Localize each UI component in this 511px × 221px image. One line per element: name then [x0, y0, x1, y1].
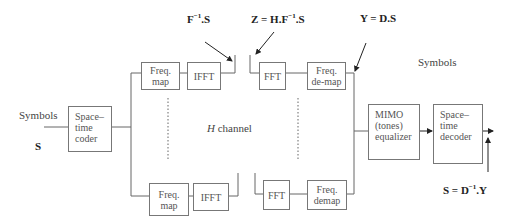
output-symbols-label: Symbols	[418, 56, 457, 68]
fft-top-block: FFT	[259, 62, 286, 90]
eq-base: S = D	[443, 184, 469, 196]
block-line: Space–	[75, 111, 111, 122]
equation-demap-output: Y = D.S	[360, 12, 396, 24]
block-line: equalizer	[375, 131, 419, 142]
channel-label: H channel	[207, 122, 252, 134]
eq-tail: .Y	[476, 184, 487, 196]
block-line: Freq.	[150, 65, 171, 76]
eq-base: F	[187, 13, 194, 25]
eq-base: Z = H.F	[251, 13, 288, 25]
block-line: MIMO	[375, 109, 419, 120]
block-line: time	[440, 120, 482, 131]
block-line: map	[159, 200, 180, 211]
freq-demap-top-block: Freq.de-map	[307, 62, 346, 90]
block-line: de-map	[312, 76, 342, 87]
ifft-top-block: IFFT	[187, 62, 221, 90]
block-line: demap	[314, 195, 341, 206]
freq-map-bottom-block: Freq.map	[149, 183, 189, 216]
equation-channel-output: Z = H.F−1.S	[251, 12, 305, 25]
equation-decoder-output: S = D−1.Y	[443, 183, 487, 196]
block-line: decoder	[440, 131, 482, 142]
eq-sup: −1	[288, 12, 296, 20]
channel-symbol: H	[207, 122, 215, 134]
block-line: Freq.	[159, 189, 180, 200]
freq-demap-bottom-block: Freq.demap	[307, 180, 347, 210]
block-line: time	[75, 122, 111, 133]
fft-bottom-block: FFT	[263, 180, 290, 210]
freq-map-top-block: Freq.map	[141, 62, 180, 90]
eq-tail: .S	[201, 13, 210, 25]
space-time-coder-block: Space– time coder	[68, 106, 112, 152]
block-line: Freq.	[312, 65, 342, 76]
channel-text: channel	[215, 122, 252, 134]
block-line: (tones)	[375, 120, 419, 131]
block-line: map	[150, 76, 171, 87]
block-line: Freq.	[314, 184, 341, 195]
space-time-decoder-block: Space– time decoder	[433, 104, 483, 164]
ifft-bottom-block: IFFT	[193, 183, 229, 211]
eq-tail: .S	[296, 13, 305, 25]
input-symbols-label: Symbols	[19, 109, 58, 121]
input-symbol-s: S	[35, 140, 41, 152]
block-line: Space–	[440, 109, 482, 120]
block-line: coder	[75, 133, 111, 144]
mimo-equalizer-block: MIMO (tones) equalizer	[368, 104, 420, 160]
equation-ifft-output: F−1.S	[187, 12, 210, 25]
